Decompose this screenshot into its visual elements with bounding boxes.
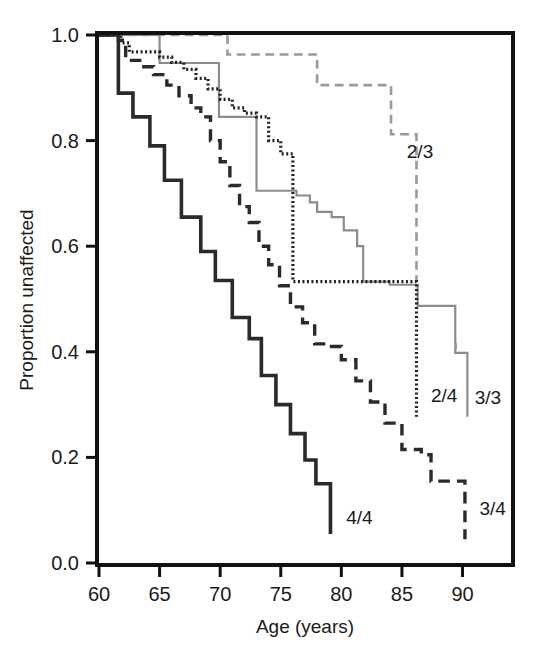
x-axis-tick-labels: 60657075808590 xyxy=(88,583,474,605)
y-tick-label: 1.0 xyxy=(51,24,79,46)
chart-canvas: 0.00.20.40.60.81.0 60657075808590 2/33/3… xyxy=(0,0,542,655)
x-tick-label: 80 xyxy=(330,583,352,605)
series-label-2-4: 2/4 xyxy=(431,385,458,406)
x-tick-label: 65 xyxy=(148,583,170,605)
scan-artifact-speck xyxy=(455,343,457,349)
y-tick-label: 0.4 xyxy=(51,341,79,363)
y-tick-label: 0.8 xyxy=(51,130,79,152)
plot-frame xyxy=(97,33,513,565)
series-label-3-4: 3/4 xyxy=(479,498,506,519)
x-tick-label: 60 xyxy=(88,583,110,605)
y-tick-label: 0.0 xyxy=(51,552,79,574)
survival-curve-figure: 0.00.20.40.60.81.0 60657075808590 2/33/3… xyxy=(0,0,542,655)
x-tick-label: 85 xyxy=(391,583,413,605)
x-tick-label: 90 xyxy=(451,583,473,605)
x-tick-label: 70 xyxy=(209,583,231,605)
y-tick-label: 0.2 xyxy=(51,446,79,468)
y-axis-title: Proportion unaffected xyxy=(16,209,37,390)
x-axis-title: Age (years) xyxy=(256,616,354,637)
series-label-2-3: 2/3 xyxy=(407,141,433,162)
x-tick-label: 75 xyxy=(270,583,292,605)
series-label-4-4: 4/4 xyxy=(346,507,373,528)
y-axis-tick-labels: 0.00.20.40.60.81.0 xyxy=(51,24,79,574)
y-tick-label: 0.6 xyxy=(51,235,79,257)
plot-frame-rect xyxy=(97,33,513,565)
series-label-3-3: 3/3 xyxy=(475,387,501,408)
